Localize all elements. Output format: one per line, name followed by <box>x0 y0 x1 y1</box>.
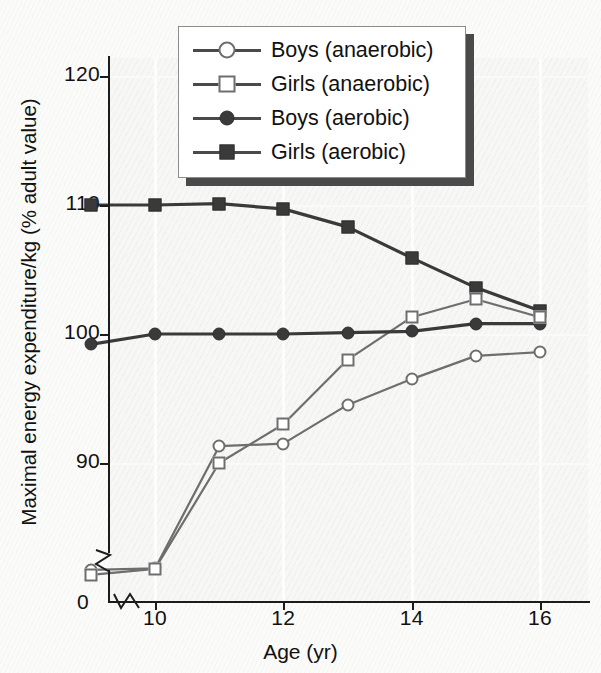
data-point-marker <box>213 457 226 470</box>
legend-marker-sample <box>191 103 263 133</box>
legend-marker-sample <box>191 137 263 167</box>
data-point-marker <box>277 437 290 450</box>
data-point-marker <box>213 440 226 453</box>
y-axis-zero-label: 0 <box>71 590 89 614</box>
legend-marker-sample <box>191 35 263 65</box>
data-point-marker <box>405 373 418 386</box>
data-point-marker <box>469 293 482 306</box>
data-point-marker <box>84 568 97 581</box>
data-point-marker <box>277 202 290 215</box>
legend-marker-icon <box>220 145 235 160</box>
x-axis <box>108 601 590 603</box>
data-point-marker <box>534 346 547 359</box>
chart-legend: Boys (anaerobic)Girls (anaerobic)Boys (a… <box>178 26 466 178</box>
data-point-marker <box>149 328 162 341</box>
legend-item: Girls (anaerobic) <box>191 69 430 99</box>
series-line <box>91 299 540 575</box>
data-point-marker <box>405 251 418 264</box>
data-point-marker <box>277 328 290 341</box>
y-tick-label: 120 <box>54 62 100 86</box>
y-tick <box>100 334 109 336</box>
data-point-marker <box>469 317 482 330</box>
chart-figure: Maximal energy expenditure/kg (% adult v… <box>0 0 601 673</box>
legend-marker-icon <box>219 42 236 59</box>
legend-marker-icon <box>220 111 235 126</box>
data-point-marker <box>341 353 354 366</box>
data-point-marker <box>341 398 354 411</box>
data-point-marker <box>469 349 482 362</box>
data-point-marker <box>405 311 418 324</box>
legend-item: Boys (anaerobic) <box>191 35 434 65</box>
series-line <box>91 352 540 570</box>
data-point-marker <box>405 325 418 338</box>
data-point-marker <box>341 326 354 339</box>
data-point-marker <box>84 338 97 351</box>
y-tick-label: 90 <box>54 449 100 473</box>
legend-item: Girls (aerobic) <box>191 137 406 167</box>
x-tick-label: 10 <box>143 606 167 630</box>
legend-label: Girls (anaerobic) <box>263 72 430 97</box>
y-axis-label: Maximal energy expenditure/kg (% adult v… <box>17 47 41 577</box>
legend-label: Boys (anaerobic) <box>263 38 434 63</box>
x-tick-label: 12 <box>271 606 295 630</box>
x-axis-label: Age (yr) <box>0 640 601 664</box>
x-tick-label: 16 <box>528 606 552 630</box>
legend-marker-sample <box>191 69 263 99</box>
data-point-marker <box>149 199 162 212</box>
data-point-marker <box>341 220 354 233</box>
legend-label: Boys (aerobic) <box>263 106 410 131</box>
y-tick <box>100 76 109 78</box>
legend-marker-icon <box>219 76 236 93</box>
data-point-marker <box>213 328 226 341</box>
data-point-marker <box>534 311 547 324</box>
y-tick <box>100 463 109 465</box>
y-axis <box>108 56 110 553</box>
y-tick <box>100 205 109 207</box>
data-point-marker <box>213 197 226 210</box>
data-point-marker <box>84 199 97 212</box>
x-axis-break-icon <box>112 592 146 614</box>
legend-label: Girls (aerobic) <box>263 140 406 165</box>
x-tick-label: 14 <box>400 606 424 630</box>
legend-item: Boys (aerobic) <box>191 103 410 133</box>
data-point-marker <box>149 562 162 575</box>
data-point-marker <box>277 418 290 431</box>
